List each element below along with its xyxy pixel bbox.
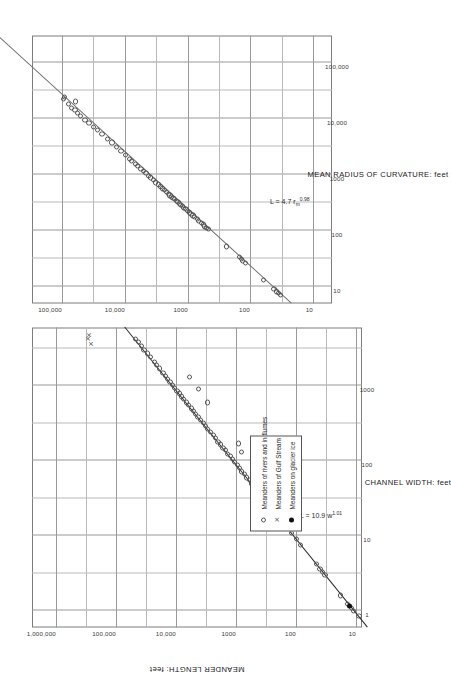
gridline-x-minor — [32, 422, 362, 423]
y-tick-label: 100 — [239, 306, 250, 313]
gridline-y — [250, 35, 251, 303]
y-tick-label: 100,000 — [92, 630, 116, 637]
cross-icon: × — [274, 515, 282, 523]
y-tick-label: 1,000,000 — [27, 630, 56, 637]
data-point-open — [187, 374, 192, 379]
data-point-open — [224, 243, 229, 248]
x-tick-label: 10 — [363, 535, 370, 542]
y-tick-label: 1000 — [173, 306, 188, 313]
data-point-open — [205, 399, 210, 404]
gridline-x-minor — [32, 89, 332, 90]
gridline-y — [176, 327, 177, 627]
filled-circle-icon — [288, 515, 296, 523]
gridline-x-minor — [32, 572, 362, 573]
data-point-open — [237, 254, 242, 259]
gridline-y-minor — [282, 35, 283, 303]
legend-item-0: Meanders of rivers and in flumes — [260, 416, 268, 523]
y-axis-title-meander-length: MEANDER LENGTH: feet — [150, 665, 245, 674]
gridline-y-minor — [326, 327, 327, 627]
data-point-open — [236, 441, 241, 446]
gridline-y-minor — [156, 35, 157, 303]
data-point-open — [118, 148, 123, 153]
x-tick-label: 1 — [365, 610, 369, 617]
data-point-open — [123, 152, 128, 157]
x-tick-label: 10 — [333, 286, 340, 293]
gridline-y — [116, 327, 117, 627]
gridline-x — [32, 384, 362, 385]
gridline-y — [188, 35, 189, 303]
data-point-open — [66, 101, 71, 106]
open-circle-icon — [260, 515, 268, 523]
legend-item-label: Meanders on glacier ice — [289, 441, 296, 509]
legend-item-2: Meanders on glacier ice — [288, 441, 296, 523]
data-point-open — [338, 592, 343, 597]
gridline-y — [62, 35, 63, 303]
gridline-y-minor — [146, 327, 147, 627]
data-point-open — [261, 277, 266, 282]
panel-upper: 10100100010,000100,00010100100010,000100… — [32, 35, 332, 303]
y-tick-label: 10,000 — [156, 630, 176, 637]
y-tick-label: 10 — [306, 306, 313, 313]
gridline-x — [32, 285, 332, 286]
legend-item-label: Meanders of rivers and in flumes — [261, 416, 268, 509]
x-tick-label: 10,000 — [327, 118, 347, 125]
x-tick-label: 100 — [362, 460, 373, 467]
gridline-x — [32, 117, 332, 118]
gridline-x — [32, 609, 362, 610]
data-point-open — [294, 536, 299, 541]
gridline-y-minor — [93, 35, 94, 303]
panel-lower: 110100100010100100010,000100,0001,000,00… — [32, 327, 362, 627]
data-point-open — [314, 561, 319, 566]
gridline-y-minor — [206, 327, 207, 627]
plot-area-upper — [32, 35, 332, 303]
y-tick-label: 10 — [349, 630, 356, 637]
gridline-y — [236, 327, 237, 627]
y-tick-label: 1000 — [221, 630, 236, 637]
y-tick-label: 100 — [285, 630, 296, 637]
gridline-x-minor — [32, 497, 362, 498]
data-point-open — [317, 566, 322, 571]
legend-box: Meanders of rivers and in flumes×Meander… — [250, 435, 302, 531]
x-tick-label: 100 — [332, 230, 343, 237]
gridline-x — [32, 459, 362, 460]
gridline-y — [125, 35, 126, 303]
x-tick-label: 1000 — [360, 385, 375, 392]
data-point-cross — [86, 332, 92, 338]
data-point-open — [109, 139, 114, 144]
data-point-open — [271, 286, 276, 291]
data-point-open — [105, 136, 110, 141]
gridline-y-minor — [219, 35, 220, 303]
y-tick-label: 10,000 — [105, 306, 125, 313]
gridline-x-minor — [32, 257, 332, 258]
plot-area-lower — [32, 327, 362, 627]
equation-label-lower: L = 10.9 w1.01 — [300, 509, 342, 518]
x-tick-label: 100,000 — [325, 62, 349, 69]
y-tick-label: 100,000 — [38, 306, 62, 313]
equation-label-upper: L = 4.7 rm0.98 — [270, 195, 310, 207]
x-axis-title-upper: MEAN RADIUS OF CURVATURE: feet — [308, 169, 449, 178]
gridline-x-minor — [32, 145, 332, 146]
legend-item-1: ×Meanders of Gulf Stream — [274, 438, 282, 523]
gridline-x — [32, 61, 332, 62]
data-point-open — [298, 542, 303, 547]
gridline-y — [356, 327, 357, 627]
data-point-open — [356, 613, 361, 618]
gridline-x — [32, 229, 332, 230]
data-point-open — [127, 156, 132, 161]
gridline-x-minor — [32, 347, 362, 348]
data-point-open — [82, 117, 87, 122]
gridline-x — [32, 534, 362, 535]
data-point-open — [152, 359, 157, 364]
x-axis-title-lower: CHANNEL WIDTH: feet — [365, 477, 451, 486]
gridline-y — [56, 327, 57, 627]
data-point-open — [99, 131, 104, 136]
gridline-x — [32, 173, 332, 174]
data-point-filled — [347, 603, 352, 608]
legend-item-label: Meanders of Gulf Stream — [275, 438, 282, 509]
data-point-open — [133, 336, 138, 341]
data-point-open — [73, 98, 78, 103]
gridline-y-minor — [86, 327, 87, 627]
data-point-open — [114, 144, 119, 149]
